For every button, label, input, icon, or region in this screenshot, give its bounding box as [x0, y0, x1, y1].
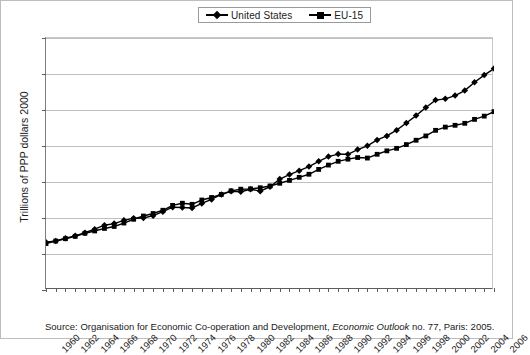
series-line-united-states — [46, 69, 494, 243]
x-axis-tick-label: 1974 — [196, 332, 219, 355]
x-axis-tick-mark — [494, 288, 495, 292]
data-point-marker — [404, 142, 409, 147]
x-axis-tick-label: 2006 — [507, 332, 530, 355]
data-point-marker — [297, 175, 302, 180]
data-point-marker — [102, 226, 107, 231]
data-point-marker — [452, 92, 459, 99]
data-point-marker — [83, 231, 88, 236]
data-point-marker — [199, 198, 204, 203]
data-point-marker — [180, 201, 185, 206]
data-point-marker — [296, 167, 303, 174]
x-axis-tick-label: 2002 — [468, 332, 491, 355]
x-axis-tick-label: 1986 — [312, 332, 335, 355]
data-point-marker — [229, 188, 234, 193]
data-point-marker — [306, 163, 313, 170]
x-axis-tick-label: 1966 — [118, 332, 141, 355]
data-point-marker — [443, 125, 448, 130]
source-suffix: no. 77, Paris: 2005. — [409, 321, 494, 332]
data-point-marker — [258, 185, 263, 190]
data-point-marker — [315, 158, 322, 165]
data-point-marker — [433, 128, 438, 133]
square-marker-icon — [309, 10, 331, 20]
data-point-marker — [63, 236, 68, 241]
data-point-marker — [336, 159, 341, 164]
legend-entry-united-states: United States — [206, 10, 292, 21]
x-axis-tick-label: 1964 — [98, 332, 121, 355]
x-axis-tick-label: 1978 — [234, 332, 257, 355]
data-point-marker — [151, 211, 156, 216]
data-point-marker — [482, 114, 487, 119]
x-axis-tick-label: 1980 — [254, 332, 277, 355]
data-point-marker — [442, 96, 449, 103]
data-point-marker — [384, 133, 391, 140]
x-axis-tick-label: 1960 — [59, 332, 82, 355]
data-point-marker — [190, 202, 195, 207]
x-axis-tick-label: 1992 — [371, 332, 394, 355]
data-point-marker — [384, 148, 389, 153]
data-point-marker — [277, 181, 282, 186]
source-prefix: Source: Organisation for Economic Co-ope… — [45, 321, 332, 332]
data-point-marker — [209, 195, 214, 200]
chart-figure: United States EU-15 Trillions of PPP dol… — [0, 0, 513, 339]
x-axis-tick-label: 1990 — [351, 332, 374, 355]
data-point-marker — [287, 178, 292, 183]
chart-legend: United States EU-15 — [198, 7, 371, 23]
data-point-marker — [414, 138, 419, 143]
data-point-marker — [170, 203, 175, 208]
data-point-marker — [335, 151, 342, 158]
data-point-marker — [472, 117, 477, 122]
data-point-marker — [375, 152, 380, 157]
legend-entry-eu-15: EU-15 — [309, 10, 363, 21]
data-point-marker — [374, 137, 381, 144]
x-axis-tick-label: 1972 — [176, 332, 199, 355]
data-point-marker — [238, 187, 243, 192]
x-axis-tick-label: 1976 — [215, 332, 238, 355]
data-point-marker — [131, 217, 136, 222]
data-point-marker — [326, 163, 331, 168]
x-axis-tick-label: 1994 — [390, 332, 413, 355]
data-point-marker — [141, 214, 146, 219]
diamond-marker-icon — [206, 10, 228, 20]
plot-area: 02468101214 1960196219641966196819701972… — [45, 37, 493, 289]
data-point-marker — [248, 186, 253, 191]
source-note: Source: Organisation for Economic Co-ope… — [45, 321, 494, 332]
x-axis-tick-label: 2004 — [488, 332, 511, 355]
data-point-marker — [92, 229, 97, 234]
data-point-marker — [345, 151, 352, 158]
x-axis-tick-label: 1982 — [273, 332, 296, 355]
y-axis-title: Trillions of PPP dollars 2000 — [18, 42, 30, 272]
data-point-marker — [112, 224, 117, 229]
x-axis-tick-label: 2000 — [449, 332, 472, 355]
data-point-marker — [53, 239, 58, 244]
x-axis-tick-label: 1962 — [79, 332, 102, 355]
data-point-marker — [462, 121, 467, 126]
x-axis-tick-label: 1970 — [157, 332, 180, 355]
data-point-marker — [355, 155, 360, 160]
data-series-layer — [46, 38, 494, 290]
x-axis-tick-label: 1998 — [429, 332, 452, 355]
data-point-marker — [46, 241, 48, 246]
data-point-marker — [268, 184, 273, 189]
source-italic: Economic Outlook — [332, 321, 409, 332]
data-point-marker — [354, 146, 361, 153]
data-point-marker — [316, 167, 321, 172]
data-point-marker — [219, 192, 224, 197]
x-axis-tick-label: 1984 — [293, 332, 316, 355]
data-point-marker — [122, 221, 127, 226]
data-point-marker — [364, 143, 371, 150]
x-axis-tick-label: 1996 — [410, 332, 433, 355]
data-point-marker — [394, 146, 399, 151]
legend-label-eu-15: EU-15 — [334, 10, 363, 21]
data-point-marker — [73, 234, 78, 239]
data-point-marker — [160, 208, 165, 213]
data-point-marker — [286, 171, 293, 178]
data-point-marker — [492, 109, 494, 114]
x-axis-tick-label: 1988 — [332, 332, 355, 355]
x-axis-tick-label: 1968 — [137, 332, 160, 355]
data-point-marker — [453, 123, 458, 128]
data-point-marker — [365, 156, 370, 161]
data-point-marker — [307, 172, 312, 177]
data-point-marker — [346, 157, 351, 162]
data-point-marker — [423, 134, 428, 139]
legend-label-united-states: United States — [231, 10, 292, 21]
